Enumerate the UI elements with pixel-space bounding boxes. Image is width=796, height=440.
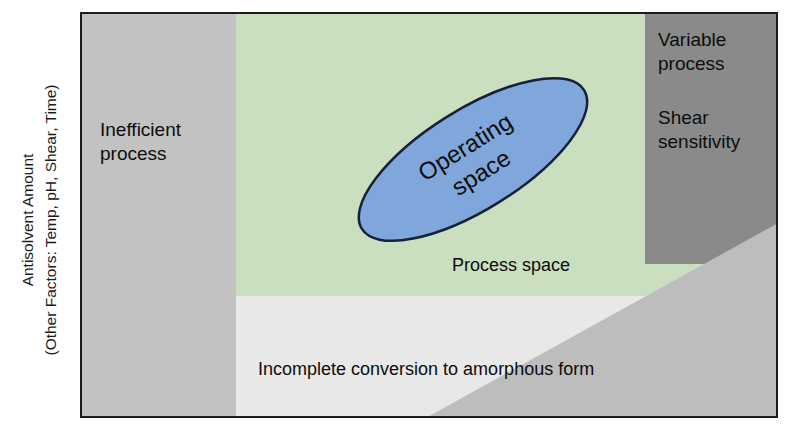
plot-frame: Inefficient process Variable process She… <box>80 12 778 418</box>
y-axis-label: Antisolvent Amount (Other Factors: Temp,… <box>0 0 78 440</box>
label-inefficient-process: Inefficient process <box>100 118 240 167</box>
y-axis-label-text: Antisolvent Amount (Other Factors: Temp,… <box>16 84 63 355</box>
region-incomplete-conversion <box>236 296 778 418</box>
y-axis-label-line2: (Other Factors: Temp, pH, Shear, Time) <box>39 84 62 355</box>
operating-space-ellipse: Operating space <box>337 57 609 262</box>
label-shear-sensitivity: Shear sensitivity <box>658 106 778 155</box>
label-variable-process: Variable process <box>658 28 778 77</box>
plot-area: Inefficient process Variable process She… <box>82 14 776 416</box>
y-axis-label-line1: Antisolvent Amount <box>16 84 39 355</box>
label-incomplete-conversion: Incomplete conversion to amorphous form <box>258 358 594 381</box>
region-inefficient-process <box>82 14 236 418</box>
